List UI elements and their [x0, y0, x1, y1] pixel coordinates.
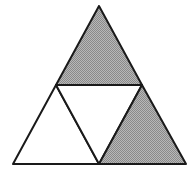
top-triangle-shaded [56, 6, 142, 85]
triangle-diagram [0, 0, 194, 172]
